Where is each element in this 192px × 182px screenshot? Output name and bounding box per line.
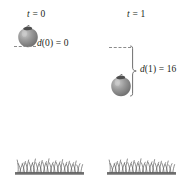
grass-patch: [106, 146, 178, 176]
apple-icon: [17, 25, 39, 48]
reference-dash-t0: [14, 46, 36, 47]
grass-patch: [14, 146, 86, 176]
distance-value-t0: (0) = 0: [42, 38, 69, 48]
time-label-t0: t = 0: [27, 10, 46, 20]
time-label-t1: t = 1: [127, 10, 146, 20]
distance-label-t0: d(0) = 0: [37, 39, 69, 49]
time-value-t1: = 1: [130, 9, 146, 19]
apple-icon: [110, 74, 132, 97]
distance-label-t1: d(1) = 16: [140, 65, 176, 75]
time-value-t0: = 0: [30, 9, 46, 19]
falling-apple-figure: t = 0 d(0) = 0 t = 1: [0, 0, 192, 182]
distance-value-t1: (1) = 16: [145, 64, 177, 74]
